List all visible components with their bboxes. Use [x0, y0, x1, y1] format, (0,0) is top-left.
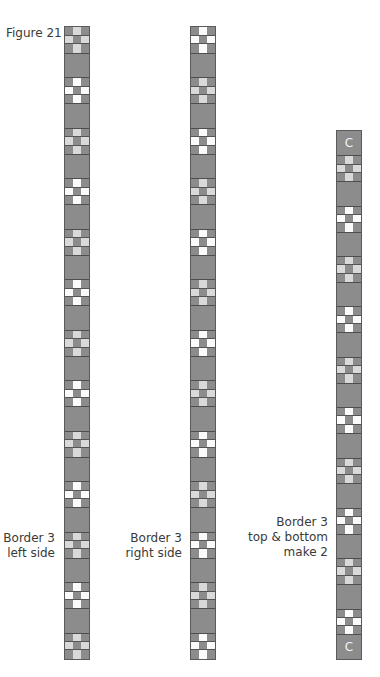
light-square — [81, 339, 89, 347]
dark-square — [191, 146, 199, 154]
light-square — [65, 238, 73, 246]
light-square — [191, 36, 199, 45]
dark-square — [191, 432, 199, 440]
light-square — [353, 567, 361, 575]
light-square — [345, 156, 353, 164]
light-square — [337, 165, 345, 173]
nine-patch-block — [191, 77, 215, 103]
light-square — [199, 448, 207, 456]
dark-square — [65, 179, 73, 187]
light-square — [73, 549, 81, 557]
sashing-rectangle — [191, 53, 215, 78]
nine-patch-block — [337, 508, 361, 534]
sashing-rectangle — [65, 305, 89, 330]
light-square — [199, 44, 207, 53]
dark-square — [337, 459, 345, 467]
sashing-rectangle — [191, 457, 215, 482]
dark-square — [65, 549, 73, 557]
light-square — [73, 95, 81, 103]
light-square — [207, 188, 215, 196]
dark-square — [191, 247, 199, 255]
light-square — [345, 173, 353, 181]
dark-square — [199, 339, 207, 347]
light-square — [199, 348, 207, 356]
nine-patch-block — [337, 306, 361, 332]
label-left-side: Border 3 left side — [3, 531, 55, 561]
dark-square — [199, 390, 207, 398]
light-square — [81, 390, 89, 398]
light-square — [191, 339, 199, 347]
dark-square — [207, 27, 215, 36]
dark-square — [345, 567, 353, 575]
label-line: top & bottom — [248, 530, 328, 545]
light-square — [345, 576, 353, 584]
dark-square — [337, 324, 345, 332]
dark-square — [81, 297, 89, 305]
light-square — [73, 634, 81, 642]
dark-square — [191, 533, 199, 541]
light-square — [81, 592, 89, 600]
dark-square — [207, 146, 215, 154]
light-square — [65, 36, 73, 45]
dark-square — [199, 541, 207, 549]
light-square — [191, 137, 199, 145]
light-square — [191, 289, 199, 297]
sashing-rectangle — [65, 204, 89, 229]
dark-square — [353, 374, 361, 382]
dark-square — [65, 27, 73, 36]
light-square — [345, 610, 353, 618]
dark-square — [73, 188, 81, 196]
dark-square — [353, 459, 361, 467]
light-square — [81, 440, 89, 448]
dark-square — [207, 499, 215, 507]
light-square — [353, 215, 361, 223]
light-square — [199, 280, 207, 288]
dark-square — [81, 78, 89, 86]
light-square — [353, 416, 361, 424]
dark-square — [81, 650, 89, 658]
dark-square — [81, 381, 89, 389]
sashing-rectangle — [191, 558, 215, 583]
dark-square — [337, 173, 345, 181]
light-square — [191, 188, 199, 196]
light-square — [199, 549, 207, 557]
dark-square — [73, 289, 81, 297]
sashing-rectangle — [65, 608, 89, 633]
light-square — [81, 188, 89, 196]
light-square — [353, 165, 361, 173]
light-square — [73, 381, 81, 389]
light-square — [345, 475, 353, 483]
light-square — [65, 339, 73, 347]
label-line: Border 3 — [3, 531, 55, 546]
sashing-rectangle — [191, 154, 215, 179]
light-square — [337, 416, 345, 424]
dark-square — [65, 95, 73, 103]
nine-patch-block — [65, 582, 89, 608]
light-square — [199, 499, 207, 507]
sashing-rectangle — [337, 534, 361, 559]
nine-patch-block — [191, 633, 215, 659]
light-square — [65, 440, 73, 448]
dark-square — [81, 44, 89, 53]
nine-patch-block — [337, 256, 361, 282]
light-square — [345, 459, 353, 467]
light-square — [337, 265, 345, 273]
dark-square — [81, 549, 89, 557]
light-square — [73, 650, 81, 658]
dark-square — [65, 44, 73, 53]
nine-patch-block — [191, 229, 215, 255]
light-square — [207, 491, 215, 499]
dark-square — [81, 432, 89, 440]
nine-patch-block — [65, 431, 89, 457]
dark-square — [81, 196, 89, 204]
light-square — [345, 257, 353, 265]
light-square — [73, 247, 81, 255]
dark-square — [191, 280, 199, 288]
dark-square — [65, 129, 73, 137]
dark-square — [191, 27, 199, 36]
nine-patch-block — [337, 407, 361, 433]
dark-square — [191, 381, 199, 389]
light-square — [73, 129, 81, 137]
light-square — [345, 358, 353, 366]
dark-square — [345, 416, 353, 424]
